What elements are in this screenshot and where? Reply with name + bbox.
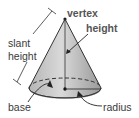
base-label: base — [8, 101, 31, 113]
slant-height-label-line1: slant — [8, 37, 30, 49]
height-label: height — [86, 22, 118, 34]
slant-height-label-line2: height — [8, 50, 37, 62]
vertex-label: vertex — [67, 7, 98, 19]
cone-diagram: vertex height slant height base radius — [0, 0, 139, 118]
radius-label: radius — [103, 101, 132, 113]
